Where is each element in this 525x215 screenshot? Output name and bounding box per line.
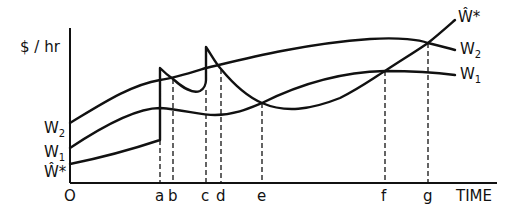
end-label-w-hat-star: Ŵ* [458,7,481,26]
curve-w-hat-star [70,20,455,164]
tick-label-g: g [423,187,433,205]
tick-label-b: b [168,187,178,205]
y-axis-label: $ / hr [20,38,61,56]
wage-diagram: $ / hr W2 W1 Ŵ* O a b c d e f g TIME Ŵ* … [0,0,525,215]
end-label-w2: W2 [460,40,481,60]
start-label-w1: W1 [44,143,65,163]
curve-w2 [70,38,455,123]
tick-label-d: d [216,187,226,205]
x-axis-label: TIME [455,187,492,205]
tick-label-e: e [257,187,266,205]
tick-label-a: a [155,187,164,205]
start-label-w2: W2 [44,119,65,139]
start-label-w-hat-star: Ŵ* [44,162,67,181]
tick-label-c: c [201,187,209,205]
origin-label: O [64,187,76,205]
end-label-w1: W1 [460,65,481,85]
tick-label-f: f [381,187,387,205]
